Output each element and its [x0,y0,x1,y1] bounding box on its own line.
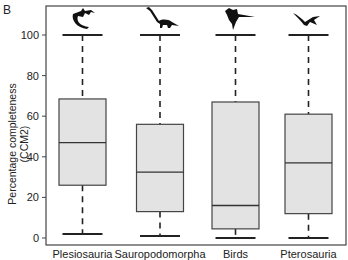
box-birds [212,102,259,229]
y-tick-label: 40 [27,151,39,163]
pterosaur-silhouette-icon [293,13,320,26]
plesiosaur-silhouette-icon [73,8,95,29]
x-category-label: Sauropodomorpha [114,248,206,260]
x-category-label: Pterosauria [280,248,337,260]
y-tick-label: 100 [21,29,39,41]
box-pterosauria [285,114,332,213]
y-tick-label: 80 [27,70,39,82]
x-category-label: Plesiosauria [53,248,114,260]
bird-silhouette-icon [225,8,255,30]
y-tick-label: 0 [33,232,39,244]
y-tick-label: 20 [27,191,39,203]
box-sauropodomorpha [137,124,184,211]
boxplot-chart: 020406080100PlesiosauriaSauropodomorphaB… [0,0,348,260]
y-tick-label: 60 [27,110,39,122]
sauropod-silhouette-icon [146,7,179,28]
x-category-label: Birds [223,248,249,260]
